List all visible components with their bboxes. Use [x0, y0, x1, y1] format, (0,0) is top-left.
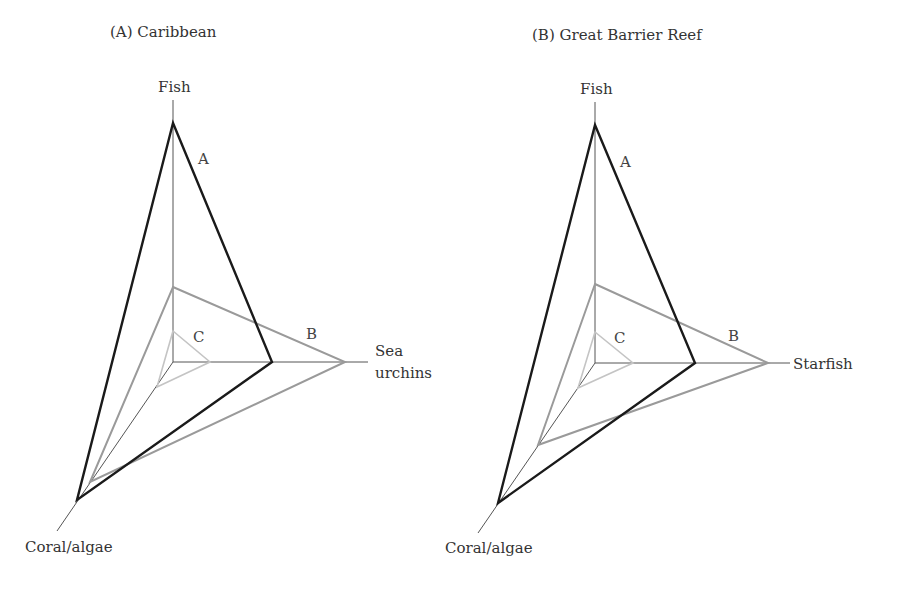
axis-label-coral-algae: Coral/algae	[25, 538, 113, 556]
series-label-a: A	[197, 150, 209, 168]
figure-canvas: (A) Caribbean Fish Sea urchins Coral/alg…	[0, 0, 901, 591]
axis-label-urchins: urchins	[375, 364, 432, 382]
series-b-polygon	[90, 287, 345, 482]
axis-label-starfish: Starfish	[793, 355, 853, 373]
axis-label-coral-algae: Coral/algae	[445, 539, 533, 557]
series-label-c: C	[614, 329, 625, 347]
axis-label-fish: Fish	[580, 80, 613, 98]
axes-caribbean	[57, 100, 368, 531]
axis-label-fish: Fish	[158, 78, 191, 96]
panel-title-caribbean: (A) Caribbean	[110, 23, 217, 41]
panel-great-barrier-reef: (B) Great Barrier Reef Fish Starfish Cor…	[445, 26, 853, 557]
series-label-c: C	[193, 328, 204, 346]
series-b-polygon	[538, 284, 768, 445]
series-a-polygon	[498, 125, 695, 503]
panel-caribbean: (A) Caribbean Fish Sea urchins Coral/alg…	[25, 23, 432, 556]
axis-label-sea: Sea	[375, 342, 403, 360]
series-label-a: A	[619, 153, 631, 171]
series-label-b: B	[728, 327, 739, 345]
axes-great-barrier-reef	[478, 102, 790, 533]
series-label-b: B	[306, 325, 317, 343]
panel-title-great-barrier-reef: (B) Great Barrier Reef	[532, 26, 703, 44]
axis-coral-algae	[57, 362, 173, 531]
